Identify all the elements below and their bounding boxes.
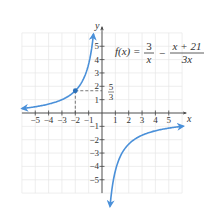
term1-denominator: x: [146, 53, 152, 65]
point-marker: [73, 88, 78, 93]
y-tick-label: −3: [89, 148, 99, 158]
y-tick-label: −1: [89, 121, 99, 131]
x-tick-label: −5: [30, 115, 40, 125]
x-tick-label: 3: [140, 115, 145, 125]
y-tick-label: 3: [95, 68, 100, 78]
x-tick-label: 4: [153, 115, 158, 125]
label-denominator: 3: [109, 92, 114, 102]
svg-text:f(x) =: f(x) =: [115, 45, 140, 58]
formula-lhs: f(x) =: [115, 45, 140, 58]
x-tick-label: −4: [44, 115, 54, 125]
y-axis-label: y: [94, 20, 100, 31]
term2-numerator: x + 21: [172, 40, 202, 52]
y-tick-label: 4: [95, 55, 100, 65]
x-axis-label: x: [186, 113, 192, 124]
y-tick-label: −4: [89, 161, 99, 171]
x-tick-label: −2: [71, 115, 81, 125]
y-tick-label: 5: [95, 41, 100, 51]
term1-numerator: 3: [146, 40, 152, 52]
y-tick-label: −5: [89, 175, 99, 185]
y-tick-label: −2: [89, 135, 99, 145]
highlighted-point: [73, 88, 78, 93]
formula-minus: −: [159, 47, 165, 59]
point-label: 5 3: [108, 82, 114, 102]
x-tick-label: −3: [57, 115, 67, 125]
label-numerator: 5: [109, 82, 114, 92]
y-tick-label: 2: [95, 81, 100, 91]
term2-denominator: 3x: [181, 53, 193, 65]
y-tick-label: 1: [95, 95, 100, 105]
x-tick-label: 1: [113, 115, 118, 125]
function-graph: −5−4−3−2−11234554321−1−2−3−4−5 y x f(x) …: [0, 0, 211, 209]
x-tick-label: 5: [167, 115, 172, 125]
x-tick-label: 2: [126, 115, 131, 125]
left-branch: [22, 34, 94, 109]
